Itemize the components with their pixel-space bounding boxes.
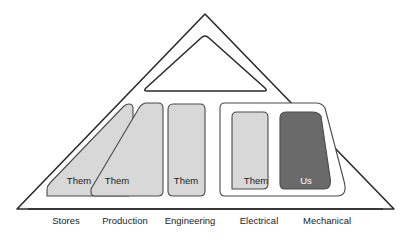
axis-label-electrical: Electrical xyxy=(240,215,279,226)
silo-label-mechanical: Us xyxy=(300,175,312,186)
silo-label-electrical: Them xyxy=(244,175,268,186)
silo-label-production: Them xyxy=(105,175,129,186)
silos-diagram: Them Them Them Them Us Stores Production… xyxy=(0,0,411,240)
axis-label-mechanical: Mechanical xyxy=(303,215,351,226)
axis-label-stores: Stores xyxy=(52,215,80,226)
axis-label-production: Production xyxy=(102,215,147,226)
axis-label-engineering: Engineering xyxy=(165,215,216,226)
apex-triangle xyxy=(145,36,267,91)
silo-label-stores: Them xyxy=(67,175,91,186)
silo-label-engineering: Them xyxy=(174,175,198,186)
diagram-canvas: Them Them Them Them Us Stores Production… xyxy=(0,0,411,240)
